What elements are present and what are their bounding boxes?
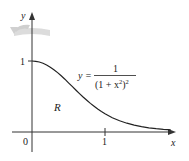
svg-text:1: 1 (113, 63, 118, 74)
y-axis-arrow-icon (29, 12, 35, 20)
y-tick-label-1: 1 (20, 56, 25, 67)
svg-text:(1 + x2)2: (1 + x2)2 (95, 78, 129, 91)
y-axis-label: y (20, 10, 26, 21)
region-label: R (53, 101, 61, 113)
rotation-arrow-icon (10, 25, 50, 36)
diagram-canvas: y x 0 1 1 R y = 1 (1 + x2)2 (0, 0, 189, 161)
x-axis-label: x (170, 137, 176, 148)
svg-text:y =: y = (77, 70, 92, 81)
curve (32, 61, 171, 130)
x-tick-label-1: 1 (102, 136, 107, 147)
origin-label: 0 (23, 136, 28, 147)
curve-equation: y = 1 (1 + x2)2 (77, 63, 136, 91)
